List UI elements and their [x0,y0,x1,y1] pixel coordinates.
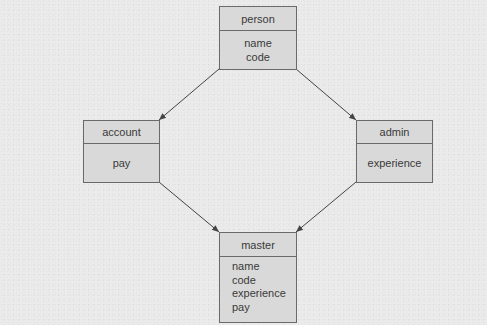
class-name-label: admin [380,126,410,138]
class-admin: admin experience [356,120,433,183]
class-admin-name: admin [357,121,432,144]
class-person: person name code [219,6,297,70]
edge-account-master [159,182,219,232]
class-account: account pay [83,120,160,183]
edge-admin-master [296,182,356,232]
edge-person-account [159,69,219,120]
class-person-name: person [220,7,296,31]
attribute: code [220,50,296,64]
attribute: name [232,260,296,274]
class-name-label: master [241,239,275,251]
class-master-attributes: name code experience pay [220,257,296,325]
class-person-attributes: name code [220,31,296,69]
attribute: experience [357,156,432,170]
class-master: master name code experience pay [219,232,297,323]
attribute: experience [232,287,296,301]
attribute: pay [232,301,296,315]
class-account-attributes: pay [84,144,159,182]
class-admin-attributes: experience [357,144,432,182]
class-name-label: person [241,13,275,25]
attribute: pay [84,156,159,170]
class-account-name: account [84,121,159,144]
class-name-label: account [102,126,141,138]
class-master-name: master [220,233,296,257]
attribute: code [232,274,296,288]
edge-person-admin [296,69,356,120]
attribute: name [220,36,296,50]
